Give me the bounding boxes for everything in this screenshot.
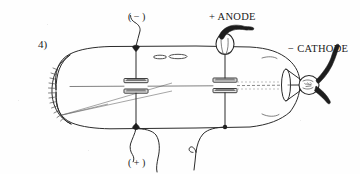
- cathode-label: − CATHODE: [288, 43, 348, 54]
- negative-terminal-label: ( − ): [128, 11, 145, 23]
- left-lower-plate: [124, 89, 148, 93]
- divergent-ray-lines: [62, 83, 172, 115]
- slit-apertures: [154, 54, 188, 59]
- figure-root: 4) ( − ) + ANODE − CATHODE ( + ): [0, 0, 360, 174]
- anode-lead-wire: [219, 25, 254, 39]
- electron-beam-path: [70, 82, 300, 89]
- positive-terminal-label: ( + ): [128, 157, 145, 169]
- right-deflecting-plate-pair: [213, 49, 237, 126]
- item-number-label: 4): [38, 38, 48, 51]
- right-upper-plate: [213, 78, 237, 82]
- left-upper-plate: [124, 79, 148, 83]
- bottom-connecting-wires: [134, 125, 227, 172]
- anode-label: + ANODE: [209, 11, 256, 22]
- cathode-ray-tube-diagram: 4) ( − ) + ANODE − CATHODE ( + ): [0, 0, 360, 174]
- right-lower-plate: [213, 89, 237, 93]
- wall-crescent-mark-upper: [262, 57, 277, 59]
- left-deflecting-plate-pair: [124, 49, 148, 126]
- wall-crescent-mark-lower: [262, 114, 279, 116]
- anode-electrode-housing: [216, 34, 234, 55]
